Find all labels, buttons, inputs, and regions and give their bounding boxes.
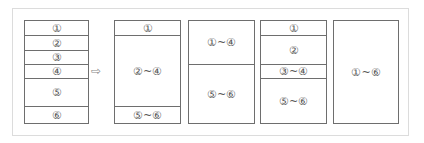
segment-1: ① bbox=[115, 21, 180, 35]
hollow-right-arrow-icon: ⇨ bbox=[91, 64, 101, 78]
segment-3-4: ③~④ bbox=[261, 64, 326, 78]
segment-1: ① bbox=[261, 21, 326, 35]
column-option-b: ①~④ ⑤~⑥ bbox=[188, 20, 255, 124]
column-option-a: ① ②~④ ⑤~⑥ bbox=[114, 20, 181, 124]
segment-1: ① bbox=[25, 21, 88, 35]
column-option-c: ① ② ③~④ ⑤~⑥ bbox=[260, 20, 327, 124]
segment-6: ⑥ bbox=[25, 106, 88, 123]
column-original: ① ② ③ ④ ⑤ ⑥ bbox=[24, 20, 89, 124]
segment-3: ③ bbox=[25, 50, 88, 64]
segment-2: ② bbox=[261, 35, 326, 64]
segment-1-6: ①~⑥ bbox=[334, 21, 398, 123]
segment-5-6: ⑤~⑥ bbox=[189, 64, 254, 123]
segment-2: ② bbox=[25, 35, 88, 50]
segment-5-6: ⑤~⑥ bbox=[261, 78, 326, 123]
segment-2-4: ②~④ bbox=[115, 35, 180, 106]
segment-5-6: ⑤~⑥ bbox=[115, 106, 180, 123]
segment-1-4: ①~④ bbox=[189, 21, 254, 64]
segment-5: ⑤ bbox=[25, 78, 88, 106]
segment-4: ④ bbox=[25, 64, 88, 78]
column-option-d: ①~⑥ bbox=[333, 20, 399, 124]
